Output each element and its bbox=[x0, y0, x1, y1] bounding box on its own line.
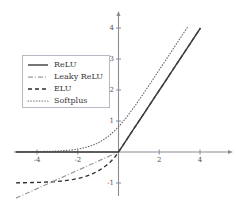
y-tick-label-4: 4 bbox=[110, 25, 114, 32]
legend-label-relu: ReLU bbox=[54, 61, 76, 69]
legend-entry-relu: ReLU bbox=[23, 59, 109, 71]
legend-entry-leaky-relu: Leaky ReLU bbox=[23, 71, 109, 83]
legend-line-dashdot-icon bbox=[27, 72, 49, 82]
legend-entry-elu: ELU bbox=[23, 83, 109, 95]
series-leaky-relu bbox=[16, 28, 201, 198]
chart-legend: ReLU Leaky ReLU ELU bbox=[22, 55, 110, 108]
y-tick-label-neg1: -1 bbox=[107, 180, 114, 187]
x-tick-label-neg4: -4 bbox=[34, 157, 41, 164]
activation-functions-chart: -4 -2 2 4 4 3 2 1 -1 ReLU Leaky ReLU bbox=[0, 0, 236, 202]
legend-entry-softplus: Softplus bbox=[23, 95, 109, 107]
x-tick-label-neg2: -2 bbox=[74, 157, 81, 164]
legend-label-leaky-relu: Leaky ReLU bbox=[54, 73, 103, 81]
y-tick-label-3: 3 bbox=[110, 56, 114, 63]
y-tick-label-2: 2 bbox=[110, 87, 114, 94]
legend-label-softplus: Softplus bbox=[54, 97, 87, 105]
legend-line-solid-icon bbox=[27, 60, 49, 70]
legend-label-elu: ELU bbox=[54, 85, 71, 93]
x-tick-label-4: 4 bbox=[198, 157, 202, 164]
x-tick-label-2: 2 bbox=[157, 157, 161, 164]
y-axis bbox=[117, 11, 121, 196]
legend-line-dotted-icon bbox=[27, 96, 49, 106]
legend-line-dashed-icon bbox=[27, 84, 49, 94]
y-tick-label-1: 1 bbox=[110, 118, 114, 125]
